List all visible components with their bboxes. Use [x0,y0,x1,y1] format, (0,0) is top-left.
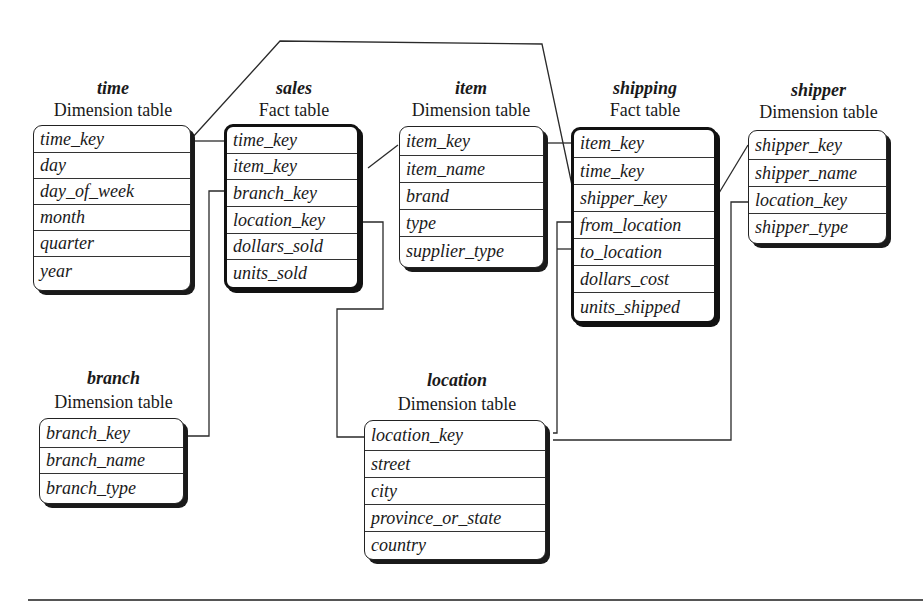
attribute-row: month [34,205,190,231]
attribute-row: province_or_state [365,505,545,532]
attribute-row: location_key [365,421,545,451]
table-title: sales [224,78,364,98]
attribute-row: shipper_key [574,185,714,212]
attribute-row: year [34,257,190,285]
table-kind: Dimension table [396,100,546,120]
table-sales: sales Fact table time_key item_key branc… [224,78,364,298]
attribute-row: item_key [227,154,357,180]
attribute-row: branch_type [40,474,183,503]
attribute-row: type [400,210,543,237]
attribute-row: shipper_type [749,214,886,241]
attribute-row: to_location [574,239,714,266]
attribute-list: item_key time_key shipper_key from_locat… [571,127,717,324]
connector-shipping-shipper [719,145,748,193]
attribute-row: time_key [34,126,190,153]
attribute-list: shipper_key shipper_name location_key sh… [748,130,887,244]
attribute-row: shipper_key [749,131,886,160]
table-shipping: shipping Fact table item_key time_key sh… [570,78,720,328]
attribute-row: day [34,153,190,179]
connector-shipping-from-location [553,222,571,433]
attribute-list: time_key day day_of_week month quarter y… [33,125,191,291]
attribute-row: brand [400,183,543,210]
table-title: location [362,370,552,390]
attribute-row: branch_name [40,448,183,474]
attribute-list: item_key item_name brand type supplier_t… [399,126,544,268]
table-title: shipper [746,80,891,100]
attribute-row: item_name [400,156,543,183]
attribute-row: street [365,451,545,478]
attribute-row: branch_key [40,419,183,448]
table-kind: Fact table [570,100,720,120]
attribute-row: from_location [574,212,714,239]
table-title: branch [36,368,191,388]
attribute-row: branch_key [227,180,357,207]
table-title: time [33,78,193,98]
attribute-row: location_key [227,207,357,234]
table-kind: Dimension table [362,394,552,414]
attribute-row: country [365,532,545,559]
attribute-row: units_shipped [574,293,714,321]
attribute-row: item_key [574,130,714,158]
attribute-list: location_key street city province_or_sta… [364,420,546,560]
table-title: item [396,78,546,98]
attribute-row: day_of_week [34,179,190,205]
table-shipper: shipper Dimension table shipper_key ship… [746,80,891,260]
attribute-row: dollars_cost [574,266,714,293]
attribute-row: item_key [400,127,543,156]
attribute-row: time_key [574,158,714,185]
table-location: location Dimension table location_key st… [362,370,552,570]
table-branch: branch Dimension table branch_key branch… [36,368,191,513]
bottom-divider [28,599,923,601]
table-kind: Dimension table [36,392,191,412]
table-item: item Dimension table item_key item_name … [396,78,546,278]
attribute-row: units_sold [227,260,357,287]
table-time: time Dimension table time_key day day_of… [33,78,193,298]
table-kind: Dimension table [746,102,891,122]
attribute-row: quarter [34,231,190,257]
attribute-row: supplier_type [400,237,543,265]
attribute-row: shipper_name [749,160,886,187]
attribute-row: location_key [749,187,886,214]
attribute-list: branch_key branch_name branch_type [39,418,184,504]
attribute-row: city [365,478,545,505]
attribute-list: time_key item_key branch_key location_ke… [224,124,360,290]
connector-sales-branch [188,191,225,436]
attribute-row: time_key [227,127,357,154]
table-kind: Fact table [224,100,364,120]
table-kind: Dimension table [33,100,193,120]
connector-sales-item [368,145,398,168]
table-title: shipping [570,78,720,98]
attribute-row: dollars_sold [227,234,357,260]
